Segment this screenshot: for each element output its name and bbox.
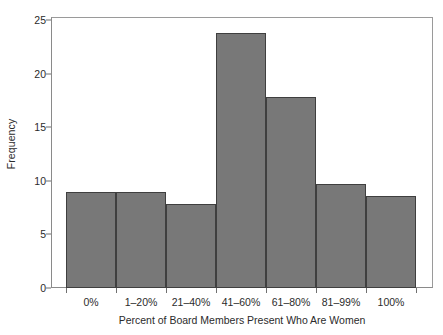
histogram-chart: Frequency 0510152025 0%1–20%21–40%41–60%… (0, 0, 443, 335)
y-axis-title-label: Frequency (5, 119, 17, 170)
x-axis-tick-mark (266, 288, 267, 293)
x-axis-tick-label: 61–80% (272, 296, 311, 308)
x-axis-tick-mark (366, 288, 367, 293)
x-axis-tick-label: 81–99% (322, 296, 361, 308)
histogram-bar (366, 196, 416, 288)
x-axis-title: Percent of Board Members Present Who Are… (51, 314, 433, 326)
histogram-bar (66, 192, 116, 288)
histogram-bar (316, 184, 366, 288)
y-axis-tick-label: 10 (22, 175, 46, 187)
x-axis-tick-label: 0% (83, 296, 98, 308)
y-axis-tick-labels: 0510152025 (22, 0, 46, 335)
histogram-bar (166, 204, 216, 288)
histogram-bar (116, 192, 166, 288)
histogram-bar (216, 33, 266, 288)
x-axis-tick-mark (416, 288, 417, 293)
histogram-bar (266, 97, 316, 288)
y-axis-tick-label: 15 (22, 121, 46, 133)
x-axis-tick-label: 21–40% (172, 296, 211, 308)
y-axis-tick-label: 5 (22, 228, 46, 240)
x-axis-tick-mark (66, 288, 67, 293)
y-axis-title: Frequency (0, 0, 22, 288)
y-axis-tick-label: 0 (22, 282, 46, 294)
x-axis-tick-mark (216, 288, 217, 293)
x-axis-tick-mark (316, 288, 317, 293)
x-axis-tick-label: 100% (378, 296, 405, 308)
bars-layer (51, 17, 433, 288)
y-axis-tick-label: 20 (22, 68, 46, 80)
x-axis-tick-mark (116, 288, 117, 293)
x-axis-tick-label: 41–60% (222, 296, 261, 308)
x-axis-tick-label: 1–20% (125, 296, 158, 308)
x-axis-tick-mark (166, 288, 167, 293)
y-axis-tick-label: 25 (22, 14, 46, 26)
